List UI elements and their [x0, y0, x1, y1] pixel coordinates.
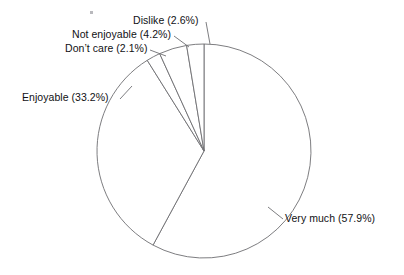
pie-chart-canvas: [0, 0, 404, 275]
slice-label-dislike: Dislike (2.6%): [133, 14, 198, 26]
slice-label-dont-care: Don’t care (2.1%): [65, 42, 148, 54]
pie-slices-group: [97, 44, 311, 258]
pie-chart: Dislike (2.6%) Not enjoyable (4.2%) Don’…: [0, 0, 404, 275]
leader-line-not-enjoyable: [174, 36, 189, 47]
leader-line-dislike: [206, 22, 210, 44]
slice-label-very-much: Very much (57.9%): [285, 212, 375, 224]
slice-label-not-enjoyable: Not enjoyable (4.2%): [72, 28, 171, 40]
slice-label-enjoyable: Enjoyable (33.2%): [22, 91, 109, 103]
scan-speck-artifact: [90, 11, 93, 14]
